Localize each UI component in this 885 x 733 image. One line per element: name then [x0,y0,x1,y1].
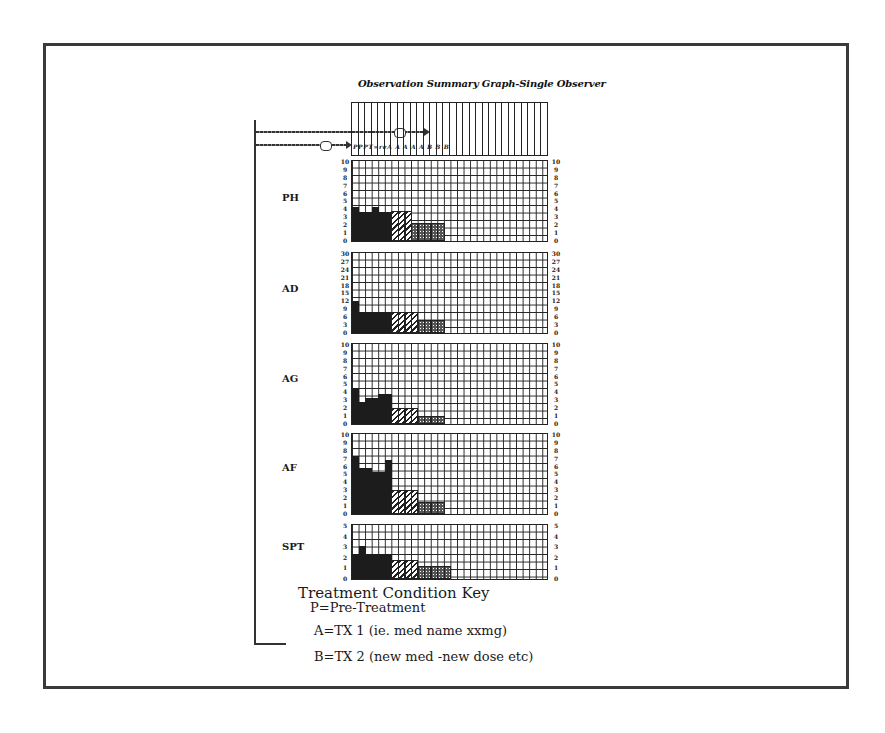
axis-tick: 7 [554,455,558,462]
axis-tick: 4 [554,533,558,540]
axis-tick: 9 [343,305,347,312]
panel-ag [351,343,548,425]
axis-tick: 4 [554,478,558,485]
chart-title: Observation Summary Graph-Single Observe… [358,78,606,89]
bar-b [437,416,444,424]
left-axis-ad: 302724211815129630 [341,250,349,336]
axis-tick: 9 [554,349,558,356]
axis-tick: 1 [343,412,347,419]
session-condition-labels: PPPT=reA A A A A B B B [353,143,449,150]
axis-tick: 4 [554,388,558,395]
panel-ph [351,160,548,242]
key-item-pretreatment: P=Pre-Treatment [310,601,533,615]
panel-label-ph: PH [282,192,299,203]
panel-ad [351,252,548,334]
axis-tick: 12 [341,297,349,304]
axis-tick: 3 [554,213,558,220]
axis-tick: 9 [343,166,347,173]
axis-tick: 21 [341,274,349,281]
panel-spt [351,524,548,580]
axis-tick: 0 [343,237,347,244]
axis-tick: 0 [554,237,558,244]
axis-tick: 10 [552,158,560,165]
axis-tick: 12 [552,297,560,304]
axis-tick: 3 [343,543,347,550]
axis-tick: 5 [554,197,558,204]
axis-tick: 6 [343,313,347,320]
axis-tick: 6 [554,313,558,320]
axis-tick: 8 [343,447,347,454]
axis-tick: 10 [341,341,349,348]
left-axis-af: 109876543210 [341,431,349,517]
axis-tick: 9 [554,439,558,446]
axis-tick: 6 [343,463,347,470]
axis-tick: 2 [554,221,558,228]
axis-tick: 6 [554,463,558,470]
axis-tick: 0 [554,510,558,517]
axis-tick: 21 [552,274,560,281]
panel-af [351,433,548,515]
axis-tick: 7 [343,455,347,462]
axis-tick: 3 [343,213,347,220]
bars-ad [352,253,547,333]
axis-tick: 1 [554,229,558,236]
axis-tick: 4 [343,205,347,212]
axis-tick: 24 [552,266,560,273]
panel-label-ag: AG [282,373,298,384]
axis-tick: 9 [554,166,558,173]
axis-tick: 4 [343,533,347,540]
axis-tick: 27 [552,258,560,265]
axis-tick: 5 [343,380,347,387]
right-axis-spt: 543210 [552,522,560,582]
phase-arrow-short [256,144,348,146]
axis-tick: 2 [343,221,347,228]
axis-tick: 3 [554,486,558,493]
axis-tick: 6 [554,190,558,197]
bar-b [437,502,444,514]
treatment-condition-key: Treatment Condition Key P=Pre-Treatment … [298,585,533,664]
axis-tick: 30 [341,250,349,257]
axis-tick: 2 [554,554,558,561]
axis-tick: 5 [343,522,347,529]
axis-tick: 5 [554,522,558,529]
panel-label-spt: SPT [282,541,304,552]
axis-tick: 15 [341,289,349,296]
axis-tick: 0 [343,575,347,582]
axis-tick: 4 [343,478,347,485]
axis-tick: 9 [343,349,347,356]
axis-tick: 7 [554,365,558,372]
bars-spt [352,525,547,579]
bar-b [437,320,444,333]
axis-tick: 2 [343,494,347,501]
axis-tick: 0 [343,329,347,336]
axis-tick: 10 [552,341,560,348]
axis-tick: 5 [343,470,347,477]
axis-tick: 18 [552,282,560,289]
axis-tick: 1 [343,564,347,571]
left-axis-spt: 543210 [341,522,349,582]
axis-tick: 6 [343,190,347,197]
axis-tick: 3 [554,321,558,328]
axis-tick: 27 [341,258,349,265]
axis-tick: 5 [554,380,558,387]
axis-tick: 1 [343,502,347,509]
axis-tick: 8 [343,357,347,364]
axis-tick: 3 [554,396,558,403]
header-column [541,103,547,155]
left-axis-ph: 109876543210 [341,158,349,244]
axis-tick: 10 [341,431,349,438]
axis-tick: 30 [552,250,560,257]
axis-tick: 5 [343,197,347,204]
axis-tick: 1 [554,412,558,419]
key-item-tx2: B=TX 2 (new med -new dose etc) [314,650,533,664]
axis-tick: 4 [554,205,558,212]
axis-tick: 4 [343,388,347,395]
axis-tick: 0 [554,575,558,582]
key-item-tx1: A=TX 1 (ie. med name xxmg) [314,624,533,638]
axis-tick: 10 [341,158,349,165]
axis-tick: 9 [554,305,558,312]
axis-tick: 3 [554,543,558,550]
bars-ag [352,344,547,424]
axis-tick: 24 [341,266,349,273]
axis-tick: 8 [554,357,558,364]
